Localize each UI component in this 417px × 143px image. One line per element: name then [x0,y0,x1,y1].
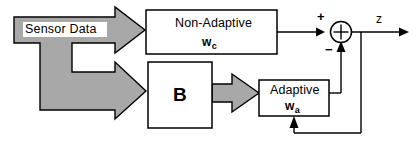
diagram-canvas: Sensor Data Non-Adaptive wc B Adaptive w… [0,0,417,143]
sensor-data-text-plate [23,22,107,37]
output-z-arrowhead [399,28,409,37]
b-block[interactable] [148,62,212,128]
b-to-adaptive-gray-arrow [212,74,259,112]
plus-input-arrowhead [316,28,325,37]
feedback-arrowhead [290,116,299,128]
adaptive-block[interactable] [259,80,329,116]
non-adaptive-block[interactable] [146,10,277,54]
block-diagram-svg [0,0,417,143]
